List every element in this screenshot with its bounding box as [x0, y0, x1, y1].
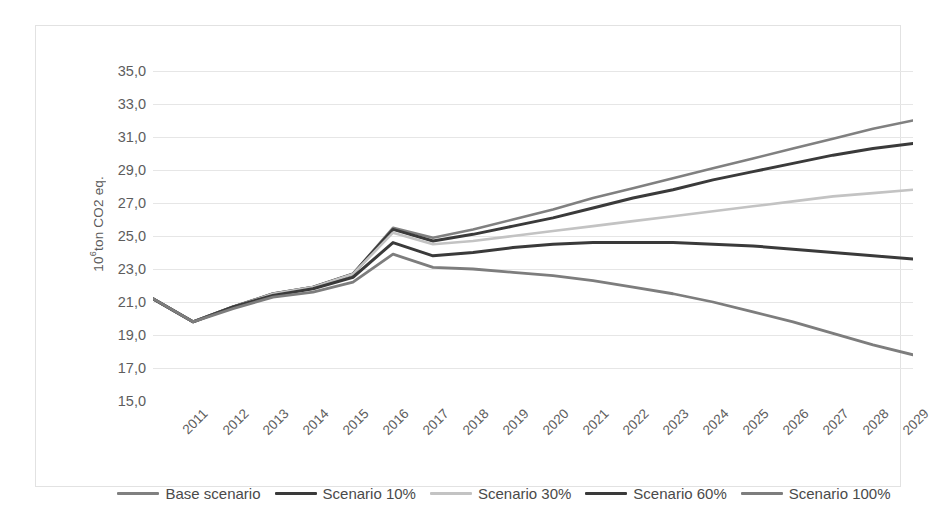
x-tick-label: 2011 — [180, 406, 211, 437]
y-tick-label: 15,0 — [102, 393, 146, 409]
x-tick-label: 2013 — [260, 406, 292, 438]
chart-legend: Base scenarioScenario 10%Scenario 30%Sce… — [71, 478, 937, 508]
legend-label: Scenario 30% — [478, 486, 571, 501]
legend-label: Scenario 100% — [789, 486, 891, 501]
x-tick-label: 2022 — [620, 406, 652, 438]
y-tick-label: 29,0 — [102, 162, 146, 178]
x-tick-label: 2020 — [540, 406, 572, 438]
legend-label: Scenario 60% — [633, 486, 726, 501]
plot-area — [153, 71, 913, 401]
x-tick-label: 2024 — [700, 406, 732, 438]
chart-canvas — [153, 71, 913, 401]
legend-label: Base scenario — [165, 486, 260, 501]
y-axis-tick-labels: 35,033,031,029,027,025,023,021,019,017,0… — [98, 71, 146, 401]
legend-item-scenario-10[interactable]: Scenario 10% — [275, 486, 416, 501]
x-tick-label: 2023 — [660, 406, 692, 438]
y-tick-label: 17,0 — [102, 360, 146, 376]
legend-swatch-icon — [585, 492, 627, 495]
legend-item-scenario-30[interactable]: Scenario 30% — [430, 486, 571, 501]
y-tick-label: 31,0 — [102, 129, 146, 145]
legend-swatch-icon — [741, 492, 783, 495]
y-tick-label: 21,0 — [102, 294, 146, 310]
x-tick-label: 2015 — [340, 406, 372, 438]
legend-swatch-icon — [430, 492, 472, 495]
legend-item-base-scenario[interactable]: Base scenario — [117, 486, 260, 501]
y-tick-label: 23,0 — [102, 261, 146, 277]
y-tick-label: 27,0 — [102, 195, 146, 211]
y-tick-label: 19,0 — [102, 327, 146, 343]
x-tick-label: 2027 — [820, 406, 852, 438]
x-tick-label: 2021 — [580, 406, 612, 438]
y-tick-label: 25,0 — [102, 228, 146, 244]
x-tick-label: 2028 — [860, 406, 892, 438]
legend-swatch-icon — [275, 492, 317, 495]
x-tick-label: 2012 — [220, 406, 252, 438]
x-tick-label: 2017 — [420, 406, 452, 438]
y-tick-label: 35,0 — [102, 63, 146, 79]
y-tick-label: 33,0 — [102, 96, 146, 112]
legend-item-scenario-60[interactable]: Scenario 60% — [585, 486, 726, 501]
x-tick-label: 2026 — [780, 406, 812, 438]
x-axis-tick-labels: 2011201220132014201520162017201820192020… — [153, 406, 913, 486]
chart-frame: 106ton CO2 eq. 35,033,031,029,027,025,02… — [35, 25, 901, 487]
x-tick-label: 2016 — [380, 406, 412, 438]
legend-swatch-icon — [117, 492, 159, 495]
legend-label: Scenario 10% — [323, 486, 416, 501]
x-tick-label: 2029 — [900, 406, 932, 438]
x-tick-label: 2018 — [460, 406, 492, 438]
series-line-scenario-60 — [153, 243, 913, 322]
legend-item-scenario-100[interactable]: Scenario 100% — [741, 486, 891, 501]
x-tick-label: 2014 — [300, 406, 332, 438]
x-tick-label: 2019 — [500, 406, 532, 438]
x-tick-label: 2025 — [740, 406, 772, 438]
